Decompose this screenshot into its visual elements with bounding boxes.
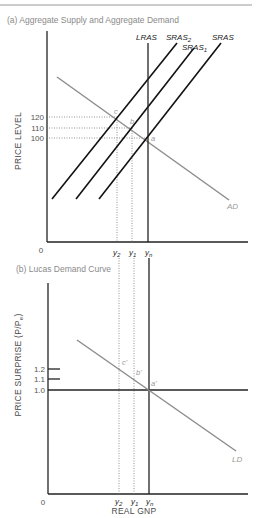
- tick-1-2: 1.2: [34, 365, 46, 374]
- panel-a-y-label: PRICE LEVEL: [13, 112, 23, 170]
- x-tick-yn: yn: [144, 248, 153, 258]
- sras-label: SRAS: [212, 33, 234, 42]
- x-tick-y2: y2: [112, 248, 121, 258]
- ad-curve: [57, 77, 229, 200]
- point-c-prime-label: c': [122, 358, 128, 367]
- sras2-label: SRAS2: [166, 33, 192, 43]
- ld-curve: [77, 340, 236, 451]
- tick-120: 120: [31, 113, 45, 122]
- x-tick-y1: y1: [128, 248, 136, 258]
- panel-b-title: (b) Lucas Demand Curve: [16, 264, 111, 274]
- lras-label: LRAS: [136, 33, 158, 42]
- economics-diagram: (a) Aggregate Supply and Aggregate Deman…: [0, 0, 265, 518]
- panel-b: (b) Lucas Demand Curve PRICE SURPRISE (P…: [13, 258, 248, 516]
- panel-b-x-label: REAL GNP: [111, 506, 156, 516]
- point-a-prime-label: a': [151, 379, 157, 388]
- point-b-label: b: [130, 117, 134, 126]
- point-b-prime-label: b': [136, 368, 142, 377]
- panel-a-title: (a) Aggregate Supply and Aggregate Deman…: [7, 15, 179, 25]
- point-a-label: a: [151, 134, 155, 143]
- panel-a: (a) Aggregate Supply and Aggregate Deman…: [7, 15, 248, 258]
- sras1-label: SRAS1: [182, 43, 207, 53]
- sras2-curve: [52, 43, 177, 199]
- ld-label: LD: [232, 455, 242, 464]
- sras1-curve: [76, 48, 194, 199]
- ad-label: AD: [226, 202, 238, 211]
- point-c-label: c: [114, 107, 118, 116]
- panel-b-y-label: PRICE SURPRISE (P/Pe): [13, 313, 24, 416]
- panel-a-origin: 0: [39, 246, 44, 255]
- tick-1-0: 1.0: [34, 386, 46, 395]
- tick-100: 100: [31, 134, 45, 143]
- tick-1-1: 1.1: [34, 375, 46, 384]
- tick-110: 110: [31, 124, 44, 133]
- panel-b-origin: 0: [41, 498, 46, 507]
